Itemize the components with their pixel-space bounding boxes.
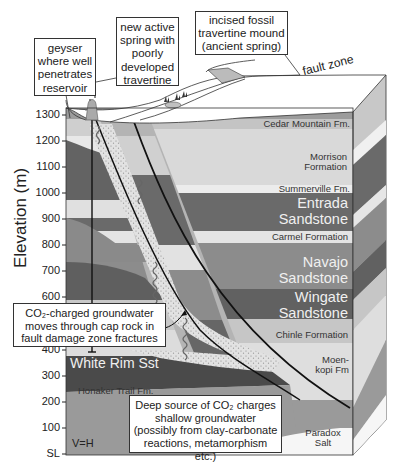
tick-800: 800 xyxy=(26,238,60,250)
tick-900: 900 xyxy=(26,212,60,224)
tick-200: 200 xyxy=(26,395,60,407)
label-morrison: Morrison Formation xyxy=(285,152,347,173)
callout-geyser: geyser where well penetrates reservoir xyxy=(34,38,96,96)
callout-cap-rock: CO₂-charged groundwater moves through ca… xyxy=(13,303,166,347)
label-chinle: Chinle Formation xyxy=(250,330,348,340)
label-honaker-trail: Honaker Trail Fm. xyxy=(78,385,154,396)
tick-300: 300 xyxy=(26,369,60,381)
label-carmel: Carmel Formation xyxy=(250,232,348,242)
label-white-rim: White Rim Sst xyxy=(70,355,159,371)
y-axis-title: Elevation (m) xyxy=(11,163,31,273)
question-mark: ? xyxy=(194,392,205,415)
geyser-icon xyxy=(85,93,98,120)
tick-1300: 1300 xyxy=(26,108,60,120)
tick-100: 100 xyxy=(26,421,60,433)
label-paradox-salt: Paradox Salt xyxy=(300,428,346,449)
geologic-block-diagram: 1300 1200 1100 1000 900 800 700 600 400 … xyxy=(0,0,400,469)
label-wingate: Wingate Sandstone xyxy=(270,290,348,322)
label-cedar-mountain: Cedar Mountain Fm. xyxy=(250,119,350,129)
tick-700: 700 xyxy=(26,264,60,276)
tick-1100: 1100 xyxy=(26,160,60,172)
callout-deep-source: Deep source of CO₂ charges shallow groun… xyxy=(129,395,282,453)
callout-fossil-mound: incised fossil travertine mound (ancient… xyxy=(195,11,288,55)
tick-sl: SL xyxy=(26,447,60,459)
label-navajo: Navajo Sandstone xyxy=(270,255,348,287)
scale-note: V=H xyxy=(72,437,94,449)
tick-600: 600 xyxy=(26,290,60,302)
label-summerville: Summerville Fm. xyxy=(250,184,350,194)
label-moenkopi: Moen- kopi Fm xyxy=(305,355,349,376)
y-axis xyxy=(62,115,66,454)
tick-1200: 1200 xyxy=(26,134,60,146)
label-entrada: Entrada Sandstone xyxy=(270,196,348,228)
callout-new-spring: new active spring with poorly developed … xyxy=(116,17,179,86)
tick-1000: 1000 xyxy=(26,186,60,198)
